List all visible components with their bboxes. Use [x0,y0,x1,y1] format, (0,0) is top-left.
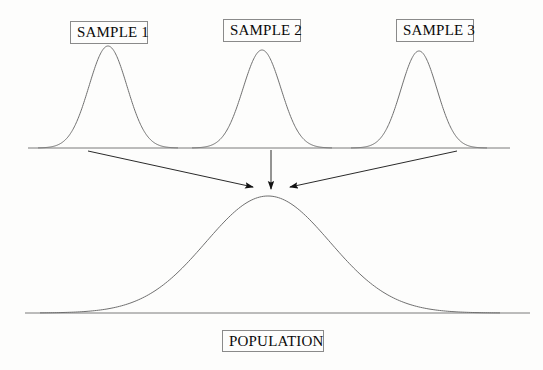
sample-2-curve [192,50,332,148]
population-curve [40,196,500,313]
arrow-group [88,150,457,189]
arrow-sample-3-to-population-icon [290,151,457,187]
sample-3-label: SAMPLE 3 [396,19,474,42]
population-label: POPULATION [222,330,324,352]
baseline-group [25,148,530,313]
arrow-sample-1-to-population-icon [88,151,253,187]
sample-1-curve [38,46,178,148]
sample-3-curve [351,51,487,148]
sampling-diagram [0,0,543,370]
sample-1-label: SAMPLE 1 [70,21,148,44]
curve-group [38,46,500,313]
diagram-canvas: SAMPLE 1 SAMPLE 2 SAMPLE 3 POPULATION [0,0,543,370]
sample-2-label: SAMPLE 2 [223,19,301,42]
